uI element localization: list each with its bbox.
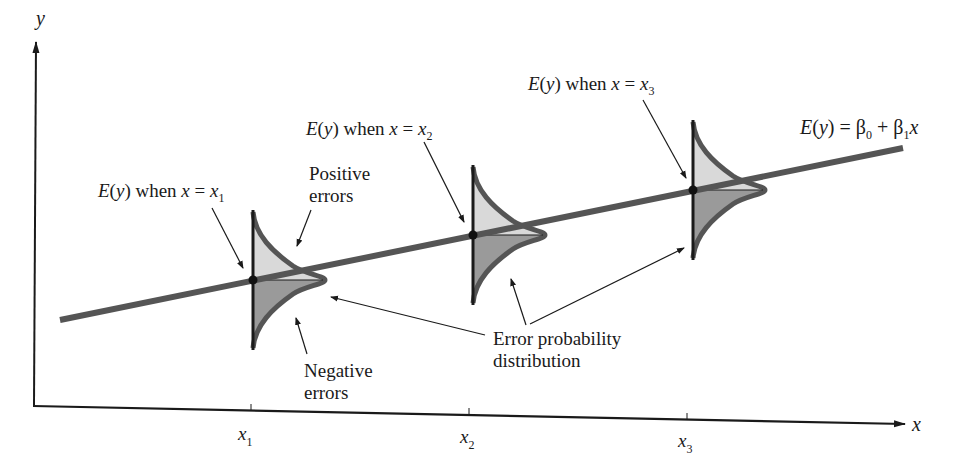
negative-error-region bbox=[693, 190, 765, 258]
mean-point-3 bbox=[689, 186, 698, 195]
negative-error-region bbox=[253, 280, 325, 348]
positive-errors-arrow bbox=[297, 210, 311, 246]
mean-arrow-3 bbox=[643, 100, 686, 178]
negative-errors-label: Negative errors bbox=[304, 360, 377, 403]
regression-line bbox=[60, 148, 903, 320]
x-axis-label: x bbox=[911, 413, 921, 435]
regression-equation-label: E(y) = β0 + β1x bbox=[799, 116, 918, 142]
mean-label-2: E(y) when x = x2 bbox=[305, 118, 432, 143]
mean-label-3: E(y) when x = x3 bbox=[527, 73, 654, 98]
error-distribution-arrow-3 bbox=[530, 248, 684, 324]
y-axis bbox=[34, 42, 36, 405]
error-distribution-arrow-1 bbox=[331, 297, 485, 335]
mean-point-2 bbox=[469, 231, 478, 240]
mean-arrow-1 bbox=[212, 208, 243, 268]
mean-label-1: E(y) when x = x1 bbox=[97, 180, 224, 205]
positive-errors-label: Positive errors bbox=[309, 163, 375, 206]
negative-error-region bbox=[473, 235, 545, 303]
y-axis-label: y bbox=[34, 7, 45, 30]
x-tick-label-3: x3 bbox=[677, 430, 692, 456]
error-distribution-arrow-2 bbox=[511, 279, 526, 325]
x-tick-label-2: x2 bbox=[459, 426, 474, 452]
mean-point-1 bbox=[249, 276, 258, 285]
mean-arrow-2 bbox=[424, 142, 464, 222]
x-tick-label-1: x1 bbox=[237, 423, 252, 449]
error-distribution-label: Error probability distribution bbox=[493, 328, 626, 371]
regression-error-diagram: y x x1 x2 x3 bbox=[0, 0, 965, 460]
negative-errors-arrow bbox=[296, 318, 307, 354]
